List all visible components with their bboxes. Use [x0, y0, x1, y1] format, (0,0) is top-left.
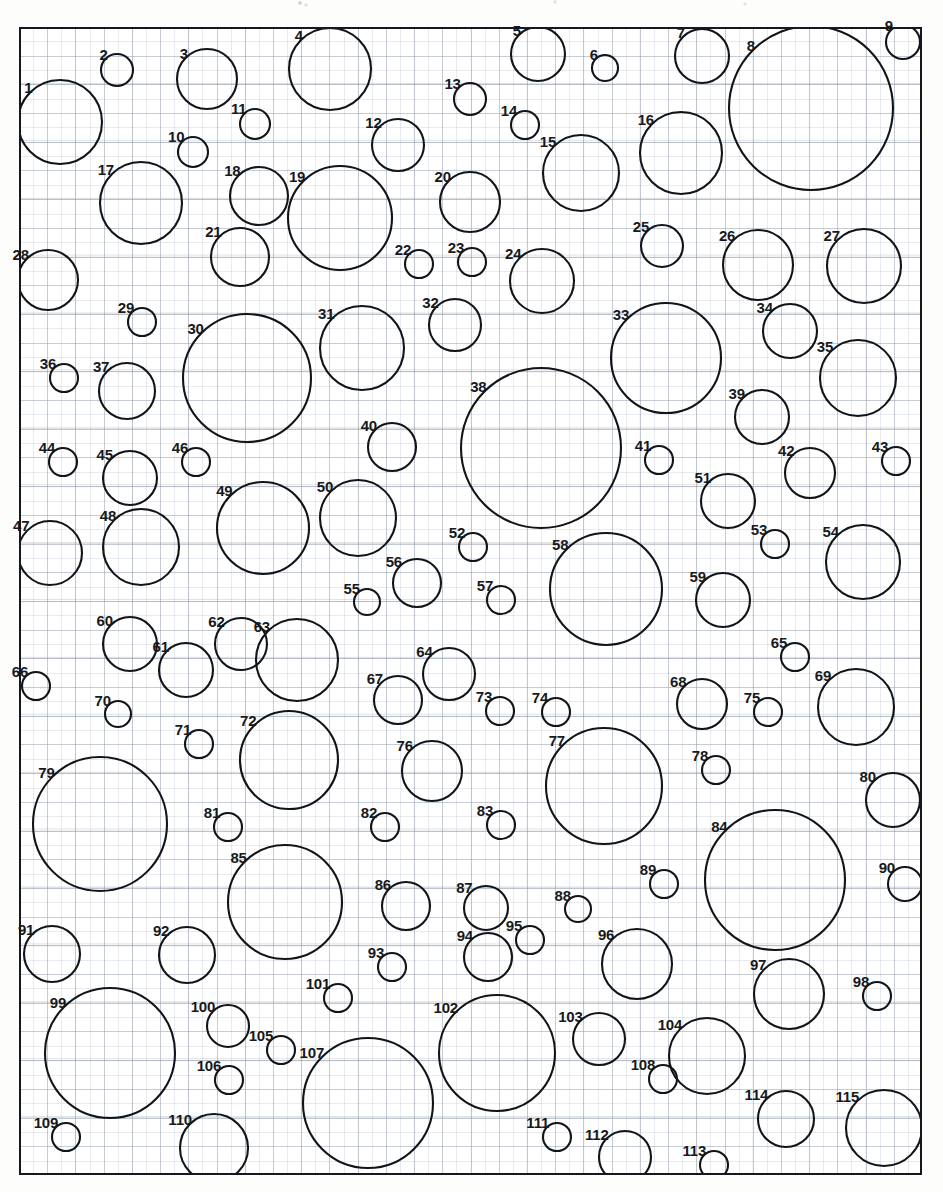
circle-label-14: 14 — [501, 103, 517, 118]
circle-label-5: 5 — [513, 23, 521, 38]
circle-label-31: 31 — [318, 306, 334, 321]
circle-label-86: 86 — [375, 877, 391, 892]
circle-label-110: 110 — [168, 1112, 192, 1127]
circle-label-39: 39 — [729, 386, 745, 401]
circle-label-33: 33 — [613, 307, 629, 322]
circle-label-38: 38 — [470, 379, 486, 394]
circle-label-90: 90 — [879, 860, 895, 875]
circle-label-41: 41 — [635, 438, 651, 453]
circle-label-32: 32 — [422, 295, 438, 310]
circle-label-77: 77 — [549, 733, 565, 748]
circle-label-44: 44 — [39, 440, 55, 455]
circle-label-7: 7 — [677, 25, 685, 40]
circle-label-76: 76 — [396, 738, 412, 753]
circle-label-28: 28 — [12, 247, 28, 262]
circle-label-67: 67 — [367, 671, 383, 686]
circle-label-81: 81 — [204, 805, 220, 820]
circle-label-40: 40 — [361, 418, 377, 433]
circle-label-73: 73 — [476, 689, 492, 704]
circle-label-36: 36 — [40, 356, 56, 371]
circle-label-64: 64 — [416, 644, 432, 659]
circle-label-57: 57 — [477, 578, 493, 593]
circle-label-54: 54 — [823, 524, 839, 539]
circle-label-42: 42 — [778, 443, 794, 458]
circle-label-85: 85 — [230, 850, 246, 865]
scan-artifact — [0, 0, 943, 8]
circle-label-49: 49 — [216, 483, 232, 498]
circle-label-61: 61 — [153, 639, 169, 654]
circle-label-82: 82 — [361, 805, 377, 820]
circle-label-91: 91 — [18, 922, 34, 937]
circle-label-99: 99 — [50, 995, 66, 1010]
circle-label-16: 16 — [638, 112, 654, 127]
circle-label-47: 47 — [13, 518, 29, 533]
circle-label-63: 63 — [254, 619, 270, 634]
circle-label-105: 105 — [249, 1028, 273, 1043]
circle-label-59: 59 — [690, 569, 706, 584]
circle-label-56: 56 — [386, 554, 402, 569]
circle-label-21: 21 — [205, 224, 221, 239]
circle-label-109: 109 — [34, 1115, 58, 1130]
circle-label-100: 100 — [191, 999, 215, 1014]
circle-label-53: 53 — [751, 522, 767, 537]
circle-label-27: 27 — [824, 228, 840, 243]
circle-label-65: 65 — [771, 635, 787, 650]
circle-label-37: 37 — [93, 359, 109, 374]
circle-label-9: 9 — [885, 18, 893, 33]
circle-label-10: 10 — [168, 129, 184, 144]
circle-label-50: 50 — [317, 479, 333, 494]
circle-label-75: 75 — [744, 690, 760, 705]
circle-label-89: 89 — [640, 862, 656, 877]
circle-label-26: 26 — [719, 228, 735, 243]
circle-label-11: 11 — [231, 101, 246, 116]
circle-label-4: 4 — [295, 28, 303, 43]
circle-label-6: 6 — [590, 47, 598, 62]
circle-label-22: 22 — [395, 242, 411, 257]
circle-label-35: 35 — [817, 339, 833, 354]
circle-label-2: 2 — [100, 47, 108, 62]
circle-label-104: 104 — [658, 1017, 682, 1032]
circle-label-80: 80 — [860, 769, 876, 784]
circle-label-1: 1 — [24, 80, 32, 95]
circle-label-20: 20 — [434, 169, 450, 184]
circle-label-87: 87 — [456, 880, 472, 895]
circle-label-12: 12 — [365, 115, 381, 130]
circle-label-96: 96 — [598, 927, 614, 942]
diagram-page: 1234567891011121314151617181920212223242… — [0, 0, 943, 1192]
circle-label-55: 55 — [344, 581, 360, 596]
circle-label-30: 30 — [187, 321, 203, 336]
circle-label-52: 52 — [449, 525, 465, 540]
circle-label-69: 69 — [815, 668, 831, 683]
circle-label-8: 8 — [747, 38, 755, 53]
circle-label-79: 79 — [38, 765, 54, 780]
circle-label-92: 92 — [153, 923, 169, 938]
circle-label-62: 62 — [208, 614, 224, 629]
circle-label-95: 95 — [506, 918, 522, 933]
graph-paper-sheet: 1234567891011121314151617181920212223242… — [19, 27, 922, 1175]
circle-label-98: 98 — [853, 974, 869, 989]
circle-label-78: 78 — [692, 748, 708, 763]
circle-label-46: 46 — [172, 440, 188, 455]
circle-label-94: 94 — [457, 928, 473, 943]
circle-label-layer: 1234567891011121314151617181920212223242… — [19, 27, 922, 1175]
circle-label-25: 25 — [633, 219, 649, 234]
circle-label-83: 83 — [477, 803, 493, 818]
circle-label-19: 19 — [289, 169, 305, 184]
circle-label-115: 115 — [836, 1089, 860, 1104]
circle-label-58: 58 — [552, 537, 568, 552]
circle-label-102: 102 — [434, 1000, 458, 1015]
circle-label-68: 68 — [670, 674, 686, 689]
circle-label-17: 17 — [98, 162, 114, 177]
circle-label-113: 113 — [682, 1143, 706, 1158]
circle-label-97: 97 — [750, 957, 766, 972]
circle-label-13: 13 — [444, 76, 460, 91]
circle-label-84: 84 — [711, 819, 727, 834]
circle-label-70: 70 — [95, 693, 111, 708]
circle-label-72: 72 — [240, 713, 256, 728]
circle-label-45: 45 — [97, 447, 113, 462]
circle-label-18: 18 — [224, 163, 240, 178]
circle-label-108: 108 — [631, 1057, 655, 1072]
circle-label-34: 34 — [757, 300, 773, 315]
circle-label-71: 71 — [175, 722, 191, 737]
circle-label-114: 114 — [745, 1087, 769, 1102]
